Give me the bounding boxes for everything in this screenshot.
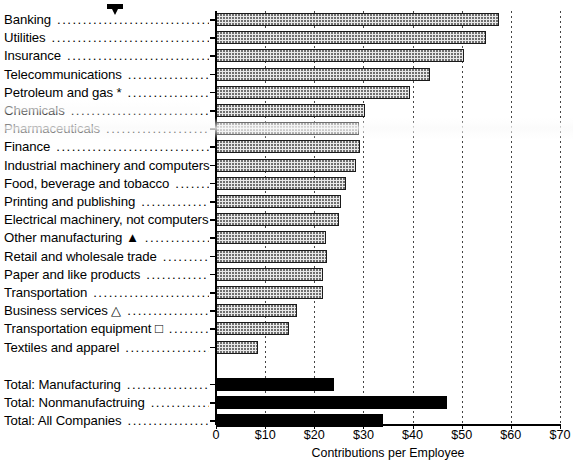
leader-dots: ........................................ [52, 29, 209, 47]
category-label: Transportation equipment □ [4, 320, 163, 338]
bar [216, 195, 341, 208]
chart-row: Industrial machinery and computers [0, 157, 573, 175]
bar [216, 49, 464, 62]
category-label: Paper and like products [4, 266, 140, 284]
category-label: Food, beverage and tobacco [4, 175, 169, 193]
chart-row: Pharmaceuticals.........................… [0, 120, 573, 138]
bar [216, 213, 339, 226]
bar [216, 122, 359, 135]
x-tick-label: $10 [243, 428, 287, 443]
leader-dots: ..................... [127, 376, 209, 394]
chart-row: Food, beverage and tobacco......... [0, 175, 573, 193]
chart-row: Retail and wholesale trade............ [0, 248, 573, 266]
chart-row: Telecommunications..................... [0, 66, 573, 84]
category-label: Textiles and apparel [4, 339, 119, 357]
category-label: Utilities [4, 29, 46, 47]
category-label: Electrical machinery, not computers [4, 211, 208, 229]
bar [216, 231, 326, 244]
bar [216, 286, 323, 299]
leader-dots: ............ [163, 248, 209, 266]
x-tick-label: $50 [440, 428, 484, 443]
x-axis-line [216, 424, 560, 426]
bar [216, 140, 360, 153]
leader-dots: ................. [145, 229, 209, 247]
leader-dots: ................................... [71, 102, 209, 120]
category-label: Other manufacturing ▲ [4, 229, 139, 247]
x-tick-label: $70 [538, 428, 573, 443]
chart-row: Transportation equipment □........... [0, 320, 573, 338]
bar [216, 86, 410, 99]
chart-row: Insurance...............................… [0, 47, 573, 65]
bar [216, 177, 346, 190]
bar [216, 378, 334, 391]
chart-row: Chemicals...............................… [0, 102, 573, 120]
bar [216, 250, 327, 263]
category-label: Transportation [4, 284, 87, 302]
leader-dots: ..................... [128, 84, 209, 102]
leader-dots: ..................... [128, 66, 209, 84]
chart-row: Banking.................................… [0, 11, 573, 29]
chart-row: Textiles and apparel....................… [0, 339, 573, 357]
chart-row: Paper and like products................ [0, 266, 573, 284]
chart-row: Printing and publishing................. [0, 193, 573, 211]
bar [216, 304, 297, 317]
x-tick-label: $30 [341, 428, 385, 443]
bar [216, 268, 323, 281]
leader-dots: ......... [175, 175, 209, 193]
leader-dots: ..................... [127, 302, 209, 320]
chart-row: Finance.................................… [0, 138, 573, 156]
leader-dots: .......................... [106, 120, 209, 138]
x-tick-label: 0 [194, 428, 238, 443]
bar [216, 396, 447, 409]
category-label: Telecommunications [4, 66, 122, 84]
category-label: Pharmaceuticals [4, 120, 100, 138]
chart-row: Other manufacturing ▲................. [0, 229, 573, 247]
category-label: Business services △ [4, 302, 121, 320]
chart-row: Petroleum and gas *..................... [0, 84, 573, 102]
leader-dots: ............... [151, 394, 209, 412]
category-label: Chemicals [4, 102, 65, 120]
category-label: Petroleum and gas * [4, 84, 122, 102]
leader-dots: ....................................... [57, 11, 209, 29]
chart-row: Total: Manufacturing....................… [0, 376, 573, 394]
y-axis-line [215, 11, 217, 425]
bar [216, 31, 486, 44]
bar [216, 68, 430, 81]
chart-row: Business services △..................... [0, 302, 573, 320]
category-label: Total: All Companies [4, 412, 121, 430]
chart-row: Electrical machinery, not computers [0, 211, 573, 229]
category-label: Banking [4, 11, 51, 29]
chart-row: Total: Nonmanufactruing............... [0, 394, 573, 412]
leader-dots: .................................... [67, 47, 209, 65]
leader-dots: ..................... [125, 339, 209, 357]
x-tick-label: $60 [489, 428, 533, 443]
x-axis-title: Contributions per Employee [216, 446, 560, 460]
leader-dots: ............................. [93, 284, 209, 302]
category-label: Total: Manufacturing [4, 376, 121, 394]
x-tick-label: $20 [292, 428, 336, 443]
horizontal-bar-chart: Banking.................................… [0, 0, 573, 467]
bar [216, 13, 499, 26]
leader-dots: ................. [141, 193, 209, 211]
chart-row: Utilities...............................… [0, 29, 573, 47]
leader-dots: ................ [146, 266, 209, 284]
category-label: Insurance [4, 47, 61, 65]
category-label: Industrial machinery and computers [4, 157, 210, 175]
x-tick-label: $40 [391, 428, 435, 443]
bar [216, 341, 258, 354]
category-label: Printing and publishing [4, 193, 135, 211]
bar [216, 159, 356, 172]
category-label: Retail and wholesale trade [4, 248, 157, 266]
bar [216, 322, 289, 335]
bar [216, 104, 365, 117]
category-label: Total: Nonmanufactruing [4, 394, 145, 412]
leader-dots: ........... [169, 320, 209, 338]
category-label: Finance [4, 138, 50, 156]
leader-dots: ....................................... [56, 138, 209, 156]
chart-row: Transportation..........................… [0, 284, 573, 302]
